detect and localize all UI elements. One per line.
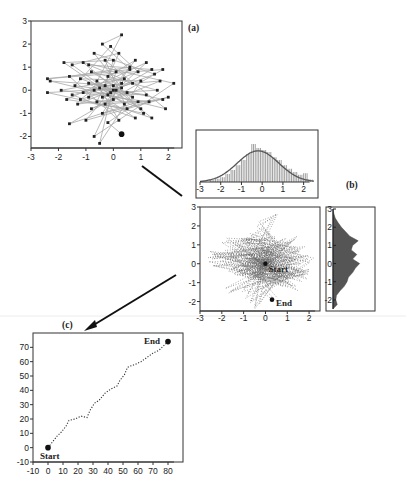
data-point — [159, 80, 162, 83]
figure-canvas: -3-2-1012-2-10123 (a) -3-2-1012 (b) -3-2… — [0, 0, 406, 496]
data-point — [139, 107, 142, 110]
end-point — [119, 131, 125, 137]
x-tick-label: 0 — [111, 152, 116, 162]
x-tick-label: 10 — [58, 466, 68, 476]
data-point — [93, 52, 96, 55]
data-point — [95, 80, 98, 83]
data-point — [123, 77, 126, 80]
data-point — [90, 107, 93, 110]
data-point — [46, 91, 49, 94]
panel-a-label: (a) — [188, 23, 199, 34]
panel-b-y-histogram: -2-10123 — [324, 204, 375, 311]
data-point — [109, 45, 112, 48]
start-annotation: Start — [268, 264, 288, 274]
data-point — [104, 103, 107, 106]
data-point — [104, 84, 107, 87]
x-tick-label: 40 — [103, 466, 113, 476]
x-tick-label: -2 — [218, 313, 226, 323]
data-point — [104, 59, 107, 62]
data-point — [115, 89, 118, 92]
data-point — [109, 91, 112, 94]
data-point — [95, 100, 98, 103]
y-tick-label: -1 — [188, 278, 196, 288]
data-point — [120, 87, 123, 90]
data-point — [139, 80, 142, 83]
data-point — [79, 98, 82, 101]
start-annotation: Start — [40, 451, 60, 461]
data-point — [145, 93, 148, 96]
data-point — [126, 107, 129, 110]
data-point — [98, 142, 101, 145]
data-point — [106, 121, 109, 124]
data-point — [49, 80, 52, 83]
start-point — [263, 261, 268, 266]
panel-b-dotted-paths — [208, 214, 314, 308]
x-tick-label: 2 — [166, 152, 171, 162]
data-point — [87, 82, 90, 85]
x-tick-label: 70 — [148, 466, 158, 476]
y-tick-label: 30 — [20, 400, 30, 410]
y-tick-label: 3 — [191, 202, 196, 212]
panel-c-cumulative-walk: -1001020304050607080-10010203040506070 S… — [17, 333, 183, 476]
data-point — [87, 63, 90, 66]
y-tick-label: 3 — [327, 204, 332, 214]
data-point — [98, 87, 101, 90]
end-point — [165, 339, 171, 345]
data-point — [153, 73, 156, 76]
y-tick-label: -2 — [324, 295, 332, 305]
arrow-head-icon — [84, 320, 97, 331]
data-point — [131, 96, 134, 99]
x-tick-label: 0 — [46, 466, 51, 476]
y-tick-label: 50 — [20, 371, 30, 381]
data-point — [93, 89, 96, 92]
data-point — [90, 70, 93, 73]
data-point — [131, 82, 134, 85]
x-tick-label: -10 — [27, 466, 40, 476]
data-point — [106, 75, 109, 78]
x-tick-label: 80 — [163, 466, 173, 476]
data-point — [71, 93, 74, 96]
data-point — [71, 63, 74, 66]
data-point — [85, 119, 88, 122]
end-point — [270, 297, 275, 302]
data-point — [150, 68, 153, 71]
y-tick-label: 20 — [20, 414, 30, 424]
data-point — [93, 135, 96, 138]
data-point — [137, 70, 140, 73]
data-point — [101, 112, 104, 115]
panel-b-x-histogram: -3-2-1012 — [196, 130, 318, 198]
data-point — [164, 107, 167, 110]
x-tick-label: -1 — [238, 184, 246, 194]
y-tick-label: 2 — [22, 39, 27, 49]
x-tick-label: 20 — [73, 466, 83, 476]
data-point — [161, 98, 164, 101]
walk-path — [48, 342, 168, 448]
end-annotation: End — [144, 336, 160, 346]
y-tick-label: 3 — [22, 16, 27, 26]
data-point — [82, 61, 85, 64]
end-annotation: End — [276, 298, 292, 308]
panel-c-start-end-markers — [45, 339, 171, 451]
y-tick-label: 10 — [20, 428, 30, 438]
data-point — [148, 100, 151, 103]
panel-b-scatter-plot: -3-2-1012-2-10123 Start End — [188, 202, 320, 323]
y-tick-label: -1 — [19, 108, 27, 118]
y-tick-label: 40 — [20, 385, 30, 395]
panel-c-label: (c) — [62, 320, 73, 331]
y-tick-label: 0 — [22, 85, 27, 95]
x-tick-label: 30 — [88, 466, 98, 476]
data-point — [68, 122, 71, 125]
data-point — [79, 77, 82, 80]
start-point — [45, 445, 51, 451]
x-tick-label: 1 — [285, 313, 290, 323]
data-point — [112, 89, 115, 92]
data-point — [145, 61, 148, 64]
y-tick-label: 2 — [191, 221, 196, 231]
data-point — [142, 112, 145, 115]
data-point — [172, 82, 175, 85]
panel-b-label: (b) — [346, 180, 358, 191]
x-tick-label: -2 — [55, 152, 63, 162]
y-tick-label: 1 — [22, 62, 27, 72]
data-point — [106, 93, 109, 96]
data-point — [134, 117, 137, 120]
